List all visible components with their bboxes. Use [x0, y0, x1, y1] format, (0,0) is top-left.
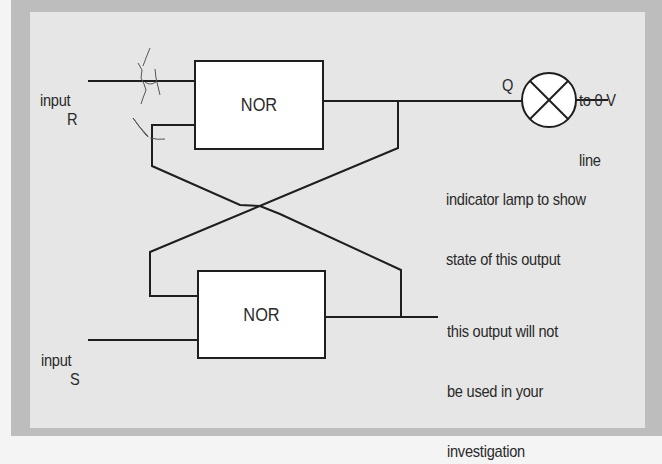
lamp-note: indicator lamp to show state of this out… — [446, 150, 586, 290]
q-output-label: Q — [502, 76, 513, 96]
lamp-symbol-icon — [522, 73, 576, 127]
input-s-letter: S — [70, 330, 80, 410]
nor-gate-top-label: NOR — [204, 94, 314, 116]
input-r-letter: R — [67, 70, 77, 150]
nor-gate-bottom-label: NOR — [207, 304, 316, 326]
input-r-label: input — [40, 51, 70, 131]
unused-output-note: this output will not be used in your inv… — [447, 282, 558, 464]
input-s-label: input — [41, 311, 71, 391]
